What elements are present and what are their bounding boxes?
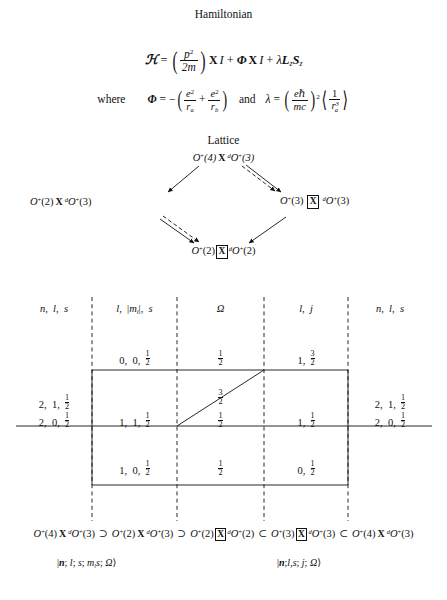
- hamiltonian-symbol: ℋ: [145, 52, 158, 67]
- lambda-numerator: eℏ: [292, 88, 308, 99]
- phi-equals: =: [160, 93, 167, 105]
- and-label: and: [239, 93, 256, 105]
- table-midrow-col1-line2: 2, 0, 12: [16, 412, 92, 429]
- kinetic-denominator: 2m: [180, 60, 198, 73]
- header-col4-label: l, j: [299, 303, 313, 314]
- left-paren-2: (: [177, 90, 182, 110]
- right-paren-2: ): [223, 90, 228, 110]
- hamiltonian-heading-label: Hamiltonian: [195, 8, 253, 20]
- bottomrow-col4-value: 0, 12: [297, 465, 314, 476]
- toprow-col2-value: 0, 0, 12: [119, 355, 149, 366]
- table-midrow-col3-lower: 12: [177, 412, 264, 429]
- kinetic-fraction: p22m: [180, 48, 198, 74]
- definitions-line: whereΦ=−(e2ra+e2rb)andλ=(eℏmc)2⟨1r3a⟩: [0, 88, 447, 113]
- left-angle-bracket: ⟨: [321, 91, 327, 110]
- header-col1-label: n, l, s: [40, 303, 68, 314]
- table-midrow-col2: 1, 1, 12: [92, 412, 177, 429]
- table-midrow-col5-line2: 2, 0, 12: [348, 412, 432, 429]
- lattice-left-text: O+(2)XdO+(3): [30, 196, 91, 207]
- identity-1: I: [219, 53, 223, 67]
- chain-relation-1: ⊃: [99, 528, 108, 539]
- term2-fraction: e2rb: [208, 88, 220, 113]
- lattice-heading: Lattice: [0, 134, 447, 146]
- lambda-fraction: eℏmc: [292, 88, 308, 112]
- phi-minus: −: [169, 93, 176, 105]
- hamiltonian-equals: =: [161, 53, 168, 67]
- midrow-col5-line2-value: 2, 0, 12: [375, 417, 405, 428]
- cross-product-1: X: [209, 53, 218, 67]
- group-chain: O+(4)XdO+(3)⊃O+(2)XdO+(3)⊃O+(2)XdO+(2)⊂O…: [0, 527, 447, 541]
- ket-right: |n;l,s; j; Ω⟩: [277, 557, 321, 568]
- midrow-col1-line1-value: 2, 1, 12: [39, 399, 69, 410]
- identity-2: I: [259, 53, 263, 67]
- expectation-numerator: 1: [329, 88, 340, 99]
- bottomrow-col3-value: 12: [218, 465, 222, 476]
- chain-item-5: O+(4)XdO+(3): [352, 528, 413, 539]
- table-bottomrow-col3: 12: [177, 460, 264, 477]
- term1-numerator: e2: [184, 88, 196, 100]
- table-toprow-col2: 0, 0, 12: [92, 350, 177, 367]
- toprow-col4-value: 1, 32: [297, 355, 314, 366]
- table-toprow-col4: 1, 32: [264, 350, 348, 367]
- lattice-heading-label: Lattice: [208, 134, 240, 146]
- table-midrow-col5-line1: 2, 1, 12: [348, 394, 432, 411]
- where-label: where: [97, 93, 125, 105]
- table-header-col3: Ω: [177, 303, 264, 314]
- ket-right-text: |n;l,s; j; Ω⟩: [277, 557, 321, 568]
- lattice-node-bottom: O+(2)XdO+(2): [0, 245, 447, 259]
- frac-three-halves-a: 32: [311, 350, 315, 367]
- table-midrow-col4: 1, 12: [264, 412, 348, 429]
- bottomrow-col2-value: 1, 0, 12: [119, 465, 149, 476]
- figure-page: Hamiltonian ℋ=(p22m)XI+ΦXI+λLzSz whereΦ=…: [0, 0, 447, 600]
- midrow-col2-value: 1, 1, 12: [119, 417, 149, 428]
- table-header-col2: l, |ml|, s: [92, 303, 177, 315]
- plus-1: +: [227, 53, 234, 67]
- table-header-col5: n, l, s: [348, 303, 432, 314]
- table-bottomrow-col2: 1, 0, 12: [92, 460, 177, 477]
- chain-relation-3: ⊂: [258, 528, 267, 539]
- lambda-exponent: 2: [316, 93, 320, 101]
- boxed-x-icon-3: X: [215, 528, 227, 541]
- header-col2-label: l, |ml|, s: [116, 303, 152, 314]
- lattice-top-text: O+(4)XdO+(3): [193, 152, 254, 163]
- phi-symbol: Φ: [147, 93, 156, 105]
- midrow-col4-value: 1, 12: [297, 417, 314, 428]
- midrow-col1-line2-value: 2, 0, 12: [39, 417, 69, 428]
- plus-2: +: [266, 53, 273, 67]
- term2-numerator: e2: [208, 88, 220, 100]
- header-col5-label: n, l, s: [376, 303, 404, 314]
- phi-symbol-eq: Φ: [237, 53, 247, 67]
- chain-item-2: O+(2)XdO+(3): [112, 528, 173, 539]
- phi-plus: +: [199, 93, 206, 105]
- chain-item-4: O+(3)XdO+(3): [271, 528, 335, 539]
- right-angle-bracket: ⟩: [343, 91, 349, 110]
- table-bottomrow-col4: 0, 12: [264, 460, 348, 477]
- expectation-fraction: 1r3a: [329, 88, 340, 113]
- midrow-col3-lower-value: 12: [218, 417, 222, 428]
- hamiltonian-equation: ℋ=(p22m)XI+ΦXI+λLzSz: [0, 48, 447, 74]
- frac-half-b: 12: [218, 350, 222, 367]
- left-paren-3: (: [284, 90, 289, 110]
- chain-relation-2: ⊃: [177, 528, 186, 539]
- term1-denominator: ra: [184, 100, 196, 113]
- boxed-x-icon-2: X: [216, 245, 228, 258]
- table-midrow-col1-line1: 2, 1, 12: [16, 394, 92, 411]
- chain-item-3: O+(2)XdO+(2): [190, 528, 254, 539]
- lattice-bottom-text: O+(2)XdO+(2): [191, 245, 255, 256]
- ket-left-text: |n; l; s; mls; Ω⟩: [57, 557, 116, 568]
- ket-left: |n; l; s; mls; Ω⟩: [57, 557, 116, 569]
- table-header-col1: n, l, s: [16, 303, 92, 314]
- S-subscript: z: [299, 59, 302, 68]
- lattice-right-text: O+(3) X dO+(3): [280, 195, 349, 206]
- chain-relation-4: ⊂: [339, 528, 348, 539]
- frac-half-a: 12: [146, 350, 150, 367]
- left-paren-1: (: [172, 50, 177, 72]
- lattice-node-left: O+(2)XdO+(3): [30, 196, 91, 207]
- right-paren-3: ): [310, 90, 315, 110]
- frac-three-halves-b: 32: [218, 389, 222, 406]
- lambda-equals: =: [274, 93, 281, 105]
- header-col3-label: Ω: [217, 303, 225, 314]
- lambda-denominator: mc: [292, 100, 308, 112]
- term2-denominator: rb: [208, 100, 220, 113]
- boxed-x-icon-4: X: [296, 528, 308, 541]
